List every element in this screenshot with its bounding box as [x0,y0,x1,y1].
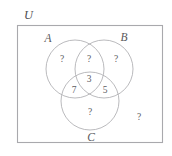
region-value-a-b-c: 3 [87,74,92,84]
venn-diagram-figure: U A B C ? ? ? 3 7 5 ? ? [0,0,172,156]
universal-set-rectangle [18,26,163,143]
set-label-b: B [120,31,127,43]
region-value-outside: ? [137,112,141,122]
region-value-a-only: ? [60,54,64,64]
set-label-c: C [87,131,95,143]
region-value-a-and-c: 7 [72,85,77,95]
set-label-a: A [43,32,52,44]
region-value-c-only: ? [88,107,92,117]
region-value-a-and-b: ? [87,54,91,64]
venn-diagram-canvas: U A B C ? ? ? 3 7 5 ? ? [0,0,172,156]
universal-set-label: U [24,8,34,22]
region-value-b-only: ? [114,54,118,64]
region-value-b-and-c: 5 [103,85,108,95]
